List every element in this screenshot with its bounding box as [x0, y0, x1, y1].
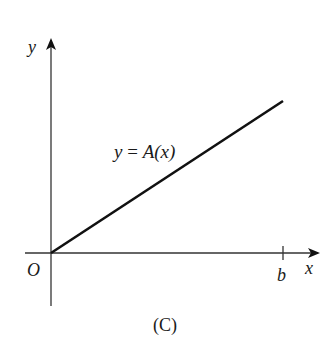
curve-label-equals: = [122, 141, 142, 162]
curve-label: y = A(x) [112, 141, 175, 163]
origin-label: O [27, 260, 40, 280]
b-tick-label: b [277, 265, 286, 285]
area-function-line [51, 101, 283, 253]
curve-label-rhs: A(x) [141, 141, 176, 163]
curve-label-lhs: y [112, 141, 123, 162]
figure-c: y x O b y = A(x) (C) [0, 0, 330, 352]
y-axis-label: y [26, 37, 36, 57]
graph-canvas: y x O b y = A(x) (C) [0, 0, 330, 352]
figure-caption: (C) [153, 315, 177, 336]
x-axis-label: x [304, 258, 313, 278]
